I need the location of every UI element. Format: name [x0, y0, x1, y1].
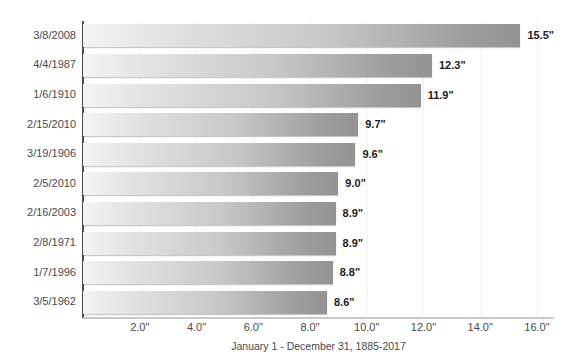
bar[interactable]	[83, 24, 520, 47]
bar-row[interactable]: 9.0"	[83, 172, 554, 195]
category-label: 3/8/2008	[0, 30, 76, 41]
bar[interactable]	[83, 172, 338, 195]
category-label: 2/5/2010	[0, 178, 76, 189]
bar-row[interactable]: 12.3"	[83, 54, 554, 77]
bar[interactable]	[83, 261, 333, 284]
bar-row[interactable]: 15.5"	[83, 24, 554, 47]
category-axis-line	[83, 317, 554, 319]
bar[interactable]	[83, 232, 336, 255]
value-axis-title: January 1 - December 31, 1885-2017	[83, 341, 554, 352]
bar-row[interactable]: 8.9"	[83, 232, 554, 255]
bar[interactable]	[83, 54, 432, 77]
category-label: 2/15/2010	[0, 119, 76, 130]
value-tick-label: 12.0"	[411, 322, 436, 333]
plot-area: 15.5"12.3"11.9"9.7"9.6"9.0"8.9"8.9"8.8"8…	[83, 21, 554, 317]
category-label: 1/7/1996	[0, 267, 76, 278]
bar-value-label: 8.8"	[340, 267, 361, 278]
value-tick-label: 10.0"	[354, 322, 379, 333]
bar-row[interactable]: 8.6"	[83, 291, 554, 314]
category-label: 1/6/1910	[0, 89, 76, 100]
bar[interactable]	[83, 202, 336, 225]
bar-value-label: 11.9"	[428, 90, 454, 101]
bar-value-label: 9.6"	[362, 149, 383, 160]
value-tick-label: 4.0"	[187, 322, 206, 333]
bar-row[interactable]: 8.9"	[83, 202, 554, 225]
value-tick-label: 2.0"	[130, 322, 149, 333]
bar-value-label: 9.7"	[365, 119, 386, 130]
value-tick-label: 8.0"	[300, 322, 319, 333]
category-label: 3/5/1962	[0, 296, 76, 307]
category-label: 2/8/1971	[0, 237, 76, 248]
bar[interactable]	[83, 84, 421, 107]
bar-row[interactable]: 9.7"	[83, 113, 554, 136]
bar-row[interactable]: 8.8"	[83, 261, 554, 284]
bar[interactable]	[83, 143, 355, 166]
bar-chart: 3/8/20084/4/19871/6/19102/15/20103/19/19…	[0, 0, 580, 360]
value-tick-label: 6.0"	[244, 322, 263, 333]
value-tick-label: 14.0"	[468, 322, 493, 333]
bar-series: 15.5"12.3"11.9"9.7"9.6"9.0"8.9"8.9"8.8"8…	[83, 21, 554, 317]
category-label: 2/16/2003	[0, 207, 76, 218]
bar-value-label: 8.9"	[343, 208, 364, 219]
bar[interactable]	[83, 291, 327, 314]
category-label: 4/4/1987	[0, 59, 76, 70]
value-axis-tick-labels: 2.0"4.0"6.0"8.0"10.0"12.0"14.0"16.0"	[83, 322, 554, 338]
category-label: 3/19/1906	[0, 148, 76, 159]
value-tick-label: 16.0"	[524, 322, 549, 333]
bar-value-label: 15.5"	[527, 30, 554, 41]
bar-row[interactable]: 11.9"	[83, 84, 554, 107]
chart-title	[0, 0, 580, 2]
bar-value-label: 8.6"	[334, 297, 355, 308]
bar-value-label: 12.3"	[439, 60, 466, 71]
category-axis-labels: 3/8/20084/4/19871/6/19102/15/20103/19/19…	[0, 21, 76, 317]
bar-value-label: 8.9"	[343, 238, 364, 249]
bar[interactable]	[83, 113, 358, 136]
bar-row[interactable]: 9.6"	[83, 143, 554, 166]
bar-value-label: 9.0"	[345, 178, 366, 189]
